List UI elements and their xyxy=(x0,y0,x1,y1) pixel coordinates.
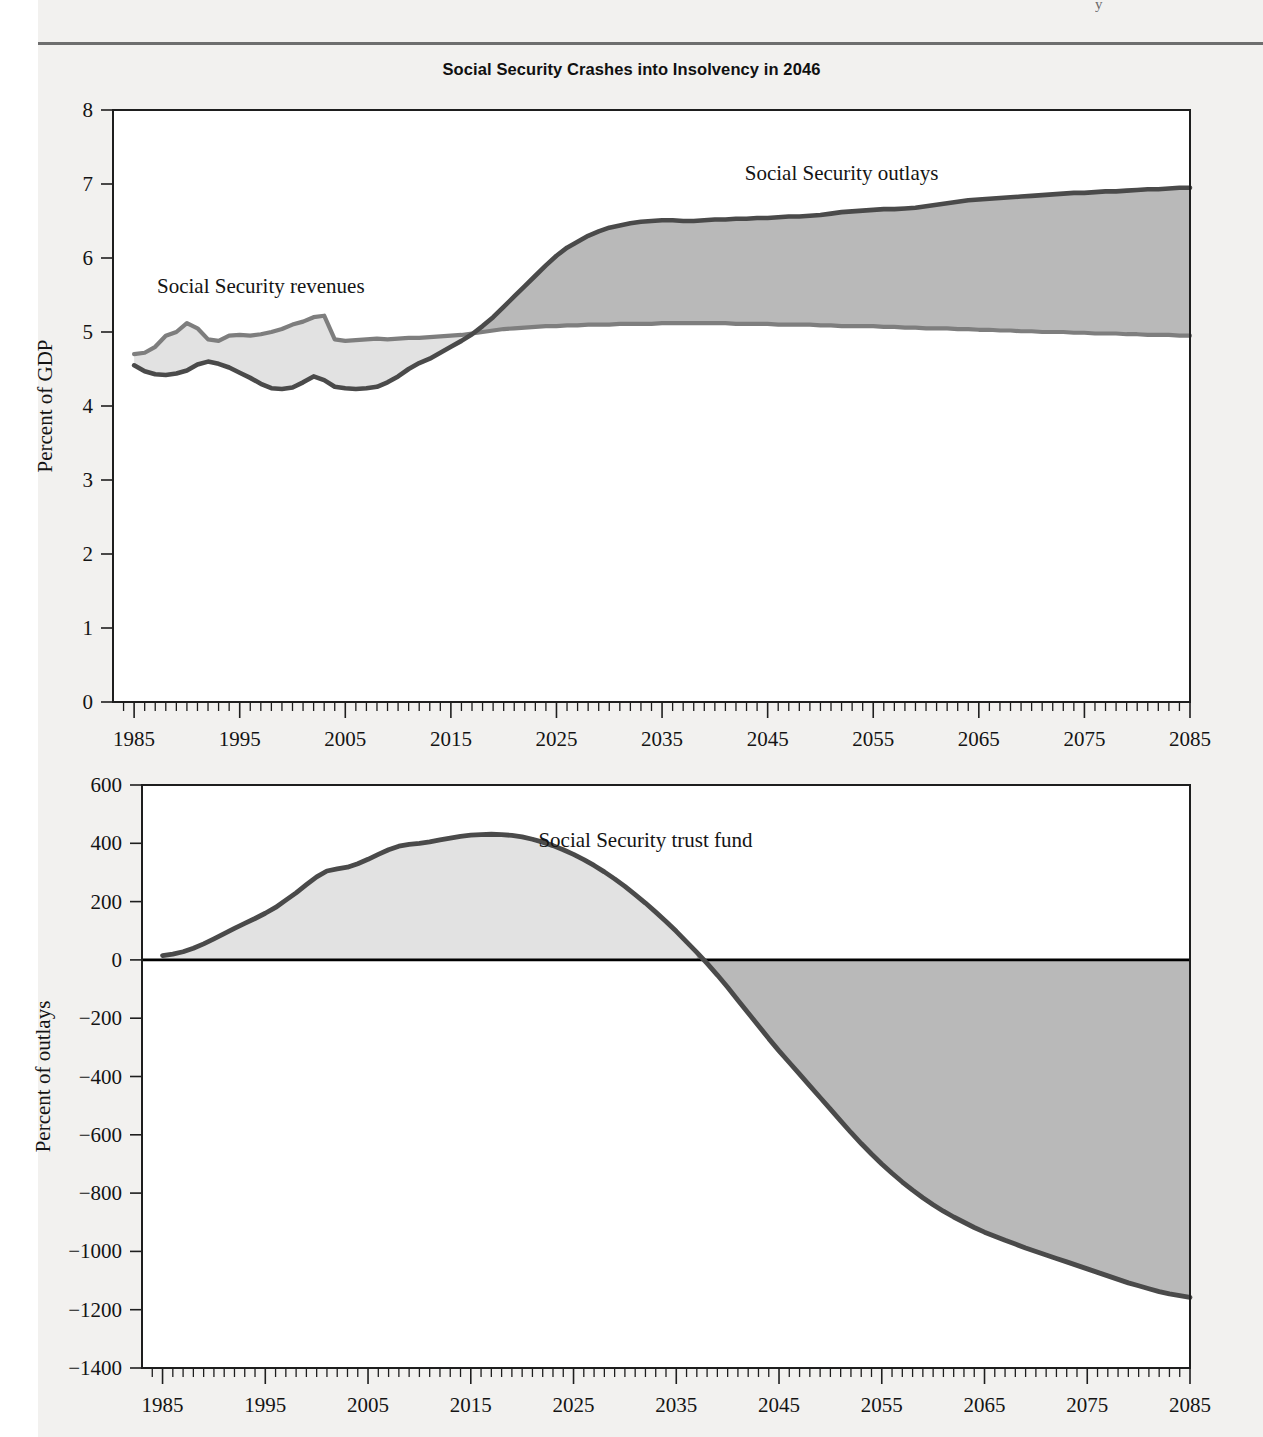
series-annotation: Social Security outlays xyxy=(745,161,939,185)
y-tick-label: −600 xyxy=(79,1123,122,1147)
x-tick-label: 1995 xyxy=(219,727,261,748)
x-tick-label: 2015 xyxy=(430,727,472,748)
chart-title: Social Security Crashes into Insolvency … xyxy=(0,60,1263,79)
y-tick-label: −800 xyxy=(79,1181,122,1205)
x-tick-label: 2075 xyxy=(1066,1393,1108,1417)
x-tick-label: 1985 xyxy=(113,727,155,748)
y-axis-title: Percent of GDP xyxy=(33,340,57,473)
x-tick-label: 2025 xyxy=(535,727,577,748)
y-tick-label: 4 xyxy=(83,394,94,418)
y-tick-label: 6 xyxy=(83,246,94,270)
chart-social-security-trust-fund: 6004002000−200−400−600−800−1000−1200−140… xyxy=(0,760,1263,1437)
x-tick-label: 2085 xyxy=(1169,727,1211,748)
x-tick-label: 2055 xyxy=(861,1393,903,1417)
x-tick-label: 2015 xyxy=(450,1393,492,1417)
y-tick-label: 7 xyxy=(83,172,94,196)
x-tick-label: 2025 xyxy=(553,1393,595,1417)
x-tick-label: 2045 xyxy=(758,1393,800,1417)
y-tick-label: −1400 xyxy=(68,1356,122,1380)
series-annotation: Social Security revenues xyxy=(157,274,365,298)
y-tick-label: 3 xyxy=(83,468,94,492)
y-tick-label: −1200 xyxy=(68,1298,122,1322)
x-tick-label: 1985 xyxy=(142,1393,184,1417)
x-tick-label: 2005 xyxy=(347,1393,389,1417)
y-tick-label: 200 xyxy=(91,890,123,914)
chart-bottom-canvas: 6004002000−200−400−600−800−1000−1200−140… xyxy=(0,760,1263,1437)
y-tick-label: 2 xyxy=(83,542,94,566)
y-tick-label: 5 xyxy=(83,320,94,344)
x-tick-label: 2045 xyxy=(747,727,789,748)
x-tick-label: 2035 xyxy=(655,1393,697,1417)
y-tick-label: −400 xyxy=(79,1065,122,1089)
x-tick-label: 1995 xyxy=(244,1393,286,1417)
x-tick-label: 2005 xyxy=(324,727,366,748)
x-tick-label: 2085 xyxy=(1169,1393,1211,1417)
y-tick-label: 8 xyxy=(83,98,94,122)
y-tick-label: −200 xyxy=(79,1006,122,1030)
chart-top-canvas: 0123456781985199520052015202520352045205… xyxy=(0,48,1263,748)
y-tick-label: 0 xyxy=(112,948,123,972)
page-header-fragment: y xyxy=(1095,0,1215,22)
page-top-rule xyxy=(38,42,1263,45)
y-tick-label: 1 xyxy=(83,616,94,640)
y-tick-label: −1000 xyxy=(68,1239,122,1263)
x-tick-label: 2075 xyxy=(1063,727,1105,748)
y-tick-label: 600 xyxy=(91,773,123,797)
x-tick-label: 2055 xyxy=(852,727,894,748)
x-tick-label: 2065 xyxy=(958,727,1000,748)
y-axis-title: Percent of outlays xyxy=(31,1001,55,1153)
chart-social-security-gdp: Social Security Crashes into Insolvency … xyxy=(0,48,1263,748)
x-tick-label: 2035 xyxy=(641,727,683,748)
y-tick-label: 400 xyxy=(91,831,123,855)
series-annotation: Social Security trust fund xyxy=(538,828,753,852)
x-tick-label: 2065 xyxy=(964,1393,1006,1417)
y-tick-label: 0 xyxy=(83,690,94,714)
